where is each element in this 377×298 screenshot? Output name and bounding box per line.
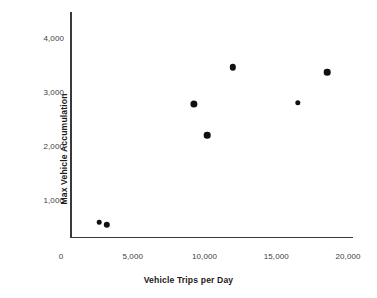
data-point — [295, 100, 300, 105]
data-point — [97, 220, 102, 225]
scatter-chart: 1,0002,0003,0004,000 05,00010,00015,0002… — [0, 0, 377, 298]
data-point — [190, 100, 197, 107]
data-point — [230, 64, 236, 70]
plot-area — [0, 0, 377, 298]
x-axis-title: Vehicle Trips per Day — [144, 275, 234, 285]
data-point — [204, 132, 211, 139]
data-point — [104, 222, 110, 228]
y-axis-title: Max Vehicle Accumulation — [59, 93, 69, 204]
data-point — [324, 69, 331, 76]
